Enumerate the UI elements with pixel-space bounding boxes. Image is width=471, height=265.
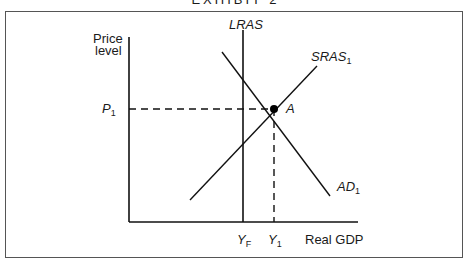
yf-subscript: F [246,239,252,249]
equilibrium-point [270,105,278,113]
y1-subscript: 1 [277,239,282,249]
y-axis-label: Price level [93,33,123,57]
sras-text: SRAS [311,49,346,64]
y-axis-label-line2: level [93,45,123,57]
y1-tick-label: Y1 [268,233,282,251]
sras-subscript: 1 [346,56,351,66]
ad-text: AD [337,179,355,194]
sras-curve [190,66,317,200]
as-ad-diagram [0,0,471,265]
lras-text: LRAS [229,17,263,32]
y1-text: Y [268,232,277,247]
p1-subscript: 1 [111,108,116,118]
p1-tick-label: P1 [102,102,116,120]
ad-curve [222,52,330,196]
point-a-label: A [286,102,295,115]
yf-tick-label: YF [237,233,251,251]
sras-label: SRAS1 [311,50,351,68]
lras-label: LRAS [229,18,263,31]
x-axis-text: Real GDP [305,232,364,247]
x-axis-label: Real GDP [305,233,364,246]
p1-text: P [102,101,111,116]
point-a-text: A [286,101,295,116]
yf-text: Y [237,232,246,247]
ad-label: AD1 [337,180,360,198]
ad-subscript: 1 [355,186,360,196]
